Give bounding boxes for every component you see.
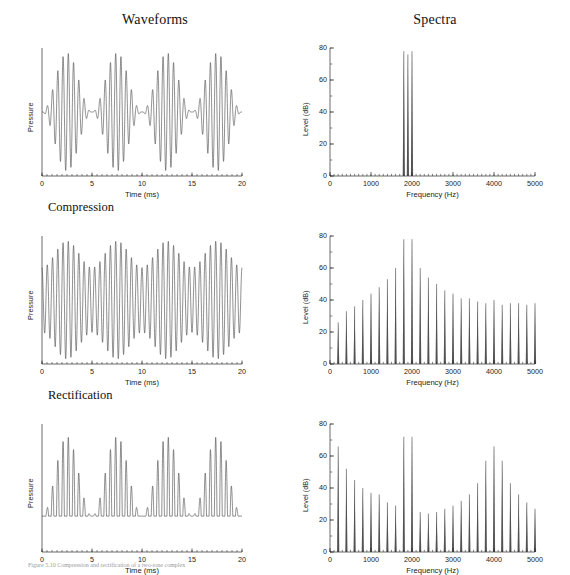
spectrum-ytick: 60 [310, 451, 327, 460]
spectrum-ytick: 20 [310, 327, 327, 336]
spectrum-ylabel: Level (dB) [301, 290, 310, 324]
row-label-compression: Compression [48, 200, 114, 215]
spectrum-xlabel: Frequency (Hz) [330, 378, 535, 387]
column-title-waveforms: Waveforms [55, 12, 255, 28]
spectrum-ylabel: Level (dB) [301, 478, 310, 512]
spectrum-ytick: 80 [310, 419, 327, 428]
spectrum-xtick: 4000 [478, 179, 510, 188]
spectrum-xtick: 3000 [437, 367, 469, 376]
spectrum-xtick: 5000 [519, 367, 551, 376]
waveform-xtick: 10 [128, 367, 156, 376]
spectrum-ytick: 60 [310, 75, 327, 84]
spectrum-ytick: 0 [310, 547, 327, 556]
row-label-rectification: Rectification [48, 388, 113, 403]
panel-waveform-original: 05101520Time (ms)Pressure [42, 48, 256, 190]
waveform-ylabel: Pressure [26, 290, 35, 320]
spectrum-ytick: 0 [310, 171, 327, 180]
spectrum-xtick: 2000 [396, 367, 428, 376]
panel-waveform-rectification: 05101520Time (ms)Pressure [42, 424, 256, 566]
spectrum-ylabel: Level (dB) [301, 102, 310, 136]
waveform-xtick: 15 [178, 367, 206, 376]
waveform-ylabel: Pressure [26, 478, 35, 508]
waveform-xtick: 5 [78, 179, 106, 188]
spectrum-ytick: 40 [310, 483, 327, 492]
spectrum-xtick: 0 [314, 179, 346, 188]
waveform-xlabel: Time (ms) [42, 378, 242, 387]
spectrum-xtick: 1000 [355, 367, 387, 376]
spectrum-ytick: 20 [310, 515, 327, 524]
waveform-xtick: 15 [178, 179, 206, 188]
spectrum-ytick: 0 [310, 359, 327, 368]
waveform-xtick: 10 [128, 179, 156, 188]
panel-spectrum-compression: 010002000300040005000020406080Frequency … [330, 236, 549, 378]
spectrum-xtick: 3000 [437, 179, 469, 188]
column-title-spectra: Spectra [345, 12, 525, 28]
spectrum-ytick: 80 [310, 231, 327, 240]
waveform-xtick: 0 [28, 367, 56, 376]
spectrum-ytick: 40 [310, 295, 327, 304]
spectrum-ytick: 40 [310, 107, 327, 116]
panel-spectrum-original: 010002000300040005000020406080Frequency … [330, 48, 549, 190]
panel-waveform-compression: 05101520Time (ms)Pressure [42, 236, 256, 378]
spectrum-xtick: 2000 [396, 179, 428, 188]
figure-caption: Figure 5.10 Compression and rectificatio… [28, 562, 548, 571]
spectrum-xtick: 5000 [519, 179, 551, 188]
waveform-xtick: 0 [28, 179, 56, 188]
waveform-xtick: 20 [228, 367, 256, 376]
panel-spectrum-rectification: 010002000300040005000020406080Frequency … [330, 424, 549, 566]
waveform-xtick: 20 [228, 179, 256, 188]
waveform-xtick: 5 [78, 367, 106, 376]
spectrum-ytick: 60 [310, 263, 327, 272]
waveform-ylabel: Pressure [26, 102, 35, 132]
spectrum-ytick: 80 [310, 43, 327, 52]
spectrum-xlabel: Frequency (Hz) [330, 190, 535, 199]
spectrum-xtick: 4000 [478, 367, 510, 376]
waveform-xlabel: Time (ms) [42, 190, 242, 199]
spectrum-ytick: 20 [310, 139, 327, 148]
spectrum-xtick: 1000 [355, 179, 387, 188]
spectrum-xtick: 0 [314, 367, 346, 376]
